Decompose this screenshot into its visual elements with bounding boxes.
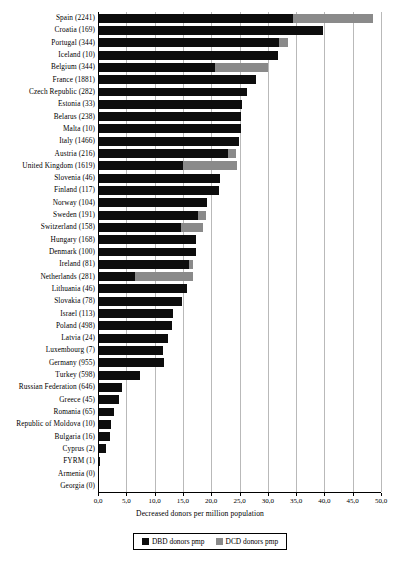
category-label: FYRM (1) <box>63 457 95 464</box>
bar-segment-dbd <box>98 38 279 47</box>
x-tick <box>324 493 325 496</box>
x-tick-label: 40,0 <box>318 497 330 505</box>
bar-row <box>98 395 381 404</box>
x-tick-label: 10,0 <box>148 497 160 505</box>
bar-row <box>98 149 381 158</box>
plot-area <box>98 12 381 492</box>
bar-row <box>98 38 381 47</box>
category-label: Ireland (81) <box>59 260 95 267</box>
bar-segment-dcd <box>189 260 193 269</box>
bar-segment-dbd <box>98 383 122 392</box>
category-label: Cyprus (2) <box>63 445 95 452</box>
bar-row <box>98 137 381 146</box>
category-label: Greece (45) <box>59 396 95 403</box>
bar-segment-dbd <box>98 358 164 367</box>
bar-row <box>98 75 381 84</box>
category-label: Austria (216) <box>55 150 95 157</box>
bar-segment-dbd <box>98 444 106 453</box>
bar-row <box>98 321 381 330</box>
bar-row <box>98 272 381 281</box>
bar-segment-dbd <box>98 420 111 429</box>
x-tick <box>353 493 354 496</box>
category-label: Spain (2241) <box>56 14 95 21</box>
bar-segment-dbd <box>98 88 247 97</box>
legend-item-dbd: DBD donors pmp <box>142 537 205 546</box>
category-label: Georgia (0) <box>60 482 95 489</box>
bar-segment-dbd <box>98 395 119 404</box>
category-label: Denmark (100) <box>49 248 95 255</box>
bar-row <box>98 14 381 23</box>
bar-row <box>98 63 381 72</box>
bar-segment-dbd <box>98 161 183 170</box>
bar-row <box>98 112 381 121</box>
category-label: Romania (65) <box>53 408 95 415</box>
category-label: Turkey (598) <box>55 371 95 378</box>
x-tick <box>268 493 269 496</box>
bar-row <box>98 174 381 183</box>
category-label: United Kingdom (1619) <box>22 162 95 169</box>
category-label: Finland (117) <box>54 186 95 193</box>
bar-row <box>98 358 381 367</box>
bar-segment-dbd <box>98 51 278 60</box>
bar-row <box>98 211 381 220</box>
category-label: Croatia (169) <box>55 26 95 33</box>
bar-row <box>98 457 381 466</box>
bar-row <box>98 248 381 257</box>
bar-row <box>98 309 381 318</box>
bar-row <box>98 51 381 60</box>
value-axis-line <box>98 12 99 492</box>
bar-segment-dcd <box>279 38 287 47</box>
category-label: Malta (10) <box>63 125 95 132</box>
category-label: Lithuania (46) <box>52 285 95 292</box>
bar-row <box>98 88 381 97</box>
bar-row <box>98 383 381 392</box>
gridline <box>381 12 382 492</box>
x-tick-label: 30,0 <box>262 497 274 505</box>
x-tick-label: 35,0 <box>290 497 302 505</box>
category-label: Italy (1466) <box>59 137 95 144</box>
bar-row <box>98 26 381 35</box>
bar-segment-dbd <box>98 75 256 84</box>
bar-row <box>98 297 381 306</box>
category-label: Netherlands (281) <box>40 273 95 280</box>
bar-segment-dbd <box>98 100 242 109</box>
bar-row <box>98 334 381 343</box>
bar-segment-dcd <box>181 223 203 232</box>
bar-segment-dcd <box>228 149 236 158</box>
category-label: Israel (113) <box>60 310 95 317</box>
category-label: Luxembourg (7) <box>46 346 95 353</box>
legend-label-dbd: DBD donors pmp <box>152 537 205 546</box>
bar-segment-dbd <box>98 112 241 121</box>
bar-segment-dbd <box>98 297 182 306</box>
bar-segment-dbd <box>98 235 196 244</box>
bar-segment-dcd <box>293 14 372 23</box>
bar-segment-dbd <box>98 223 181 232</box>
legend-swatch-dbd-icon <box>142 538 149 545</box>
x-tick-label: 15,0 <box>177 497 189 505</box>
bar-segment-dbd <box>98 198 207 207</box>
bar-segment-dcd <box>198 211 206 220</box>
x-tick-label: 50,0 <box>375 497 387 505</box>
bar-row <box>98 371 381 380</box>
category-axis-labels: Spain (2241)Croatia (169)Portugal (344)I… <box>0 12 95 492</box>
bar-row <box>98 186 381 195</box>
category-label: Russian Federation (646) <box>19 383 95 390</box>
bar-row <box>98 260 381 269</box>
bar-segment-dbd <box>98 26 323 35</box>
bar-segment-dbd <box>98 432 110 441</box>
bar-segment-dbd <box>98 186 219 195</box>
category-label: Estonia (33) <box>58 100 95 107</box>
bar-segment-dbd <box>98 284 187 293</box>
bar-segment-dbd <box>98 14 293 23</box>
bar-row <box>98 346 381 355</box>
bar-segment-dbd <box>98 149 228 158</box>
x-tick-label: 5,0 <box>122 497 131 505</box>
bar-segment-dbd <box>98 211 198 220</box>
bar-row <box>98 223 381 232</box>
x-tick-label: 25,0 <box>233 497 245 505</box>
category-label: Latvia (24) <box>61 334 95 341</box>
x-tick-label: 45,0 <box>347 497 359 505</box>
category-label: Germany (955) <box>49 359 95 366</box>
bar-row <box>98 124 381 133</box>
bar-segment-dcd <box>215 63 268 72</box>
